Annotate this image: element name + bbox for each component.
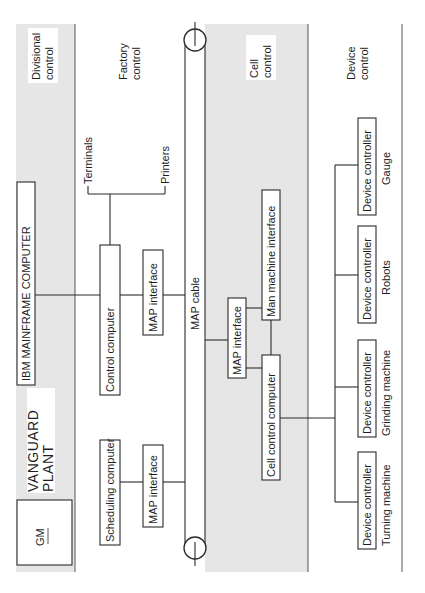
device-turning-machine: Device controller Turning machine bbox=[358, 452, 392, 549]
device-controller-label: Device controller bbox=[361, 352, 373, 434]
device-name-label: Gauge bbox=[380, 152, 392, 185]
factory-map-interface-label: MAP interface bbox=[147, 263, 159, 332]
device-controller-label: Device controller bbox=[361, 238, 373, 320]
ibm-mainframe-label: IBM MAINFRAME COMPUTER bbox=[20, 226, 32, 381]
divisional-level-label: Divisional control bbox=[28, 28, 58, 83]
device-label-line2: control bbox=[358, 47, 370, 80]
divisional-label-line2: control bbox=[43, 47, 55, 80]
gm-logo-text: GM bbox=[34, 528, 46, 546]
device-controller-label: Device controller bbox=[361, 130, 373, 212]
control-computer-label: Control computer bbox=[104, 307, 116, 392]
printers-label: Printers bbox=[159, 146, 171, 184]
device-name-label: Grinding machine bbox=[380, 350, 392, 436]
plant-text: PLANT bbox=[40, 444, 56, 492]
factory-label-line1: Factory bbox=[117, 43, 129, 80]
man-machine-interface-label: Man machine interface bbox=[265, 206, 277, 317]
cell-label-line2: control bbox=[261, 45, 273, 78]
device-name-label: Robots bbox=[380, 260, 392, 295]
device-grinding-machine: Device controller Grinding machine bbox=[358, 340, 392, 437]
cell-band bbox=[205, 24, 308, 572]
scheduling-computer-label: Scheduling computer bbox=[104, 438, 116, 542]
map-cable-label: MAP cable bbox=[189, 277, 201, 330]
terminals-label: Terminals bbox=[82, 136, 94, 184]
device-controller-label: Device controller bbox=[361, 464, 373, 546]
factory-label-line2: control bbox=[130, 47, 142, 80]
device-level-label: Device control bbox=[345, 46, 370, 80]
factory-level-label: Factory control bbox=[117, 43, 142, 80]
cell-level-label: Cell control bbox=[246, 35, 276, 80]
gm-map-network-diagram: Divisional control Factory control Cell … bbox=[0, 0, 425, 593]
cell-label-line1: Cell bbox=[248, 59, 260, 78]
divisional-label-line1: Divisional bbox=[30, 33, 42, 80]
cell-control-computer-label: Cell control computer bbox=[265, 373, 277, 477]
device-gauge: Device controller Gauge bbox=[358, 118, 392, 215]
device-robots: Device controller Robots bbox=[358, 226, 392, 323]
vanguard-text: VANGUARD bbox=[25, 410, 41, 492]
device-name-label: Turning machine bbox=[380, 464, 392, 546]
device-label-line1: Device bbox=[345, 46, 357, 80]
scheduling-map-interface-label: MAP interface bbox=[147, 455, 159, 524]
cell-map-interface-label: MAP interface bbox=[231, 306, 243, 375]
